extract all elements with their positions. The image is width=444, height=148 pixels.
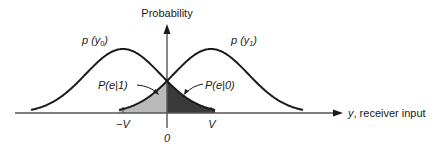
curve-label-p-y0: p (y0) (81, 34, 108, 47)
leader-arrowhead-p-e-0-icon (184, 89, 189, 95)
x-axis-arrow-icon (333, 110, 343, 117)
curve-label-p-y1: p (y1) (230, 34, 257, 47)
tick-label-zero: 0 (164, 132, 171, 144)
label-p-e-given-0: P(e|0) (205, 79, 235, 91)
error-probability-diagram: Probability p (y0) p (y1) P(e|1) P(e|0) … (0, 0, 444, 148)
x-axis-label: y, receiver input (347, 107, 426, 119)
y-axis-label: Probability (141, 7, 193, 19)
label-p-e-given-1: P(e|1) (98, 79, 128, 91)
tick-label-pos-v: V (208, 118, 217, 130)
leader-arrow-p-e-0 (186, 84, 203, 93)
tick-label-neg-v: −V (116, 118, 131, 130)
y-axis-arrow-icon (164, 24, 171, 34)
